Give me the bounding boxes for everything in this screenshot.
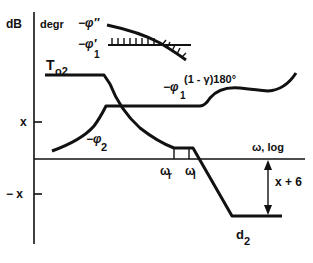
- label-omega-l-sub: l: [193, 170, 196, 181]
- tick-label-x: x: [20, 115, 27, 129]
- label-phi1-prime-sub: 1: [94, 49, 100, 60]
- label-phi-double-prime: −φ″: [78, 16, 100, 30]
- label-phi2-sub: 2: [101, 141, 107, 153]
- hatch-phi1-prime: [112, 38, 154, 45]
- x-axis-label: ω, log: [252, 141, 284, 153]
- hatch-phi-double-prime: [162, 40, 186, 57]
- gap-arrow-head-up: [264, 160, 272, 170]
- label-phi1: −φ: [163, 80, 179, 94]
- gap-arrow-head-down: [264, 205, 272, 215]
- label-d2-sub: 2: [244, 235, 250, 247]
- label-T-o2: T: [46, 57, 55, 73]
- tick-label-minus-x: − x: [6, 187, 23, 201]
- label-phi1-sup: (1 - γ)180°: [184, 73, 236, 85]
- y-label-db: dB: [6, 17, 22, 31]
- label-gap: x + 6: [275, 175, 302, 189]
- bode-diagram: dB degr x − x ω, log −φ″ −φ′ 1 T o2 ω r …: [0, 0, 313, 263]
- curve-phi-double-prime: [107, 25, 186, 60]
- label-phi2: −φ: [86, 132, 102, 146]
- label-d2: d: [236, 227, 244, 242]
- y-label-degr: degr: [40, 18, 65, 30]
- label-phi1-sub: 1: [180, 90, 186, 101]
- label-omega-r-sub: r: [168, 170, 172, 181]
- curve-T-o2: [45, 75, 282, 216]
